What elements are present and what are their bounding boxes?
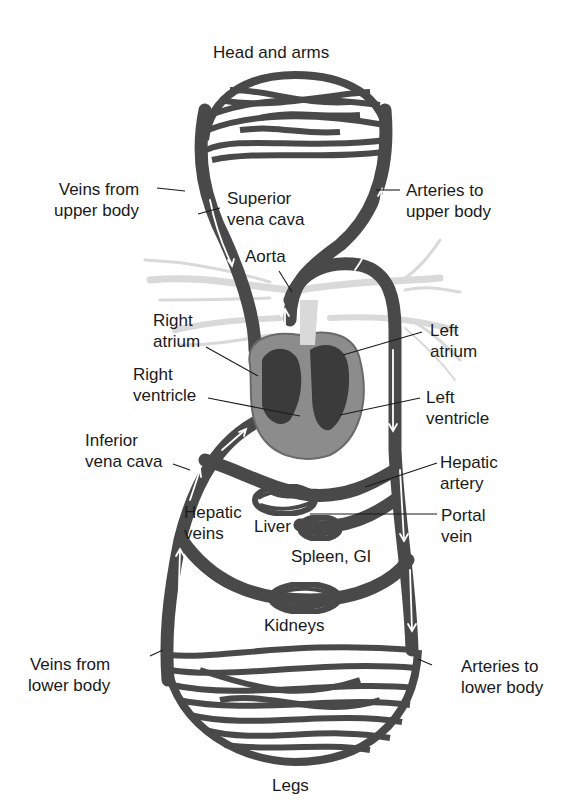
label-liver: Liver xyxy=(254,516,291,537)
label-arteries-upper-body: Arteries to upper body xyxy=(406,180,491,222)
label-kidneys: Kidneys xyxy=(264,615,324,636)
heart xyxy=(249,300,363,459)
label-veins-upper-body: Veins from upper body xyxy=(54,179,139,221)
capillary-bed-head-arms xyxy=(205,75,388,160)
label-right-ventricle: Right ventricle xyxy=(133,364,196,406)
capillary-bed-legs xyxy=(165,647,418,762)
label-portal-vein: Portal vein xyxy=(441,505,485,547)
label-left-atrium: Left atrium xyxy=(430,320,477,362)
label-right-atrium: Right atrium xyxy=(153,310,200,352)
label-hepatic-veins: Hepatic veins xyxy=(184,502,242,544)
label-arteries-lower-body: Arteries to lower body xyxy=(461,656,543,698)
label-veins-lower-body: Veins from lower body xyxy=(28,654,110,696)
label-inferior-vena-cava: Inferior vena cava xyxy=(85,430,163,472)
label-superior-vena-cava: Superior vena cava xyxy=(227,188,305,230)
label-hepatic-artery: Hepatic artery xyxy=(440,452,498,494)
label-spleen-gi: Spleen, GI xyxy=(291,546,371,567)
label-head-and-arms: Head and arms xyxy=(213,42,329,63)
label-aorta: Aorta xyxy=(245,246,286,267)
label-legs: Legs xyxy=(272,775,309,796)
label-left-ventricle: Left ventricle xyxy=(426,387,489,429)
